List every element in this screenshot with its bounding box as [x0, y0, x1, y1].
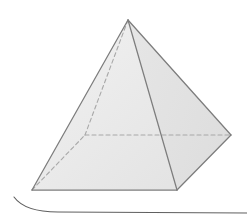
page-edge-curl-line	[14, 197, 247, 213]
square-pyramid-figure	[0, 0, 247, 219]
pyramid-faces	[32, 20, 231, 190]
figure-container: Square pyramid	[0, 0, 247, 219]
